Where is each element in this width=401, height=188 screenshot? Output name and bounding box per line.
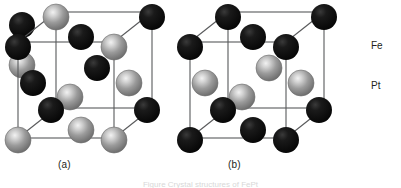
atom-fe-b-front-bottom-left-corner bbox=[177, 127, 203, 153]
figure-root: Fe Pt (a) (b) Figure Crystal structures … bbox=[0, 0, 401, 188]
atom-fe-b-front-top-left bbox=[177, 34, 203, 60]
atom-fe-a-left-face-center bbox=[20, 70, 46, 96]
atom-pt-a-front-bottom-left-corner bbox=[5, 127, 31, 153]
atom-fe-b-bottom-face-center bbox=[240, 117, 266, 143]
atom-fe-b-back-bottom-right bbox=[306, 97, 332, 123]
legend-label-pt: Pt bbox=[371, 80, 380, 91]
atom-fe-b-front-top-right bbox=[273, 34, 299, 60]
atom-fe-a-top-face-center bbox=[84, 55, 110, 81]
atom-pt-b-upper-face-center bbox=[256, 55, 282, 81]
unit-cell-diagram-a bbox=[0, 0, 172, 158]
unit-cell-diagram-b bbox=[172, 0, 352, 158]
panel-label-a: (a) bbox=[58, 159, 71, 170]
atom-fe-b-back-top-left bbox=[215, 4, 241, 30]
atom-fe-a-front-bottom-left bbox=[38, 97, 64, 123]
legend-label-fe: Fe bbox=[371, 40, 383, 51]
atom-fe-b-front-bottom-right-corner bbox=[273, 127, 299, 153]
atom-fe-b-back-face-center bbox=[240, 24, 266, 50]
atom-pt-a-front-top-right bbox=[101, 34, 127, 60]
atom-fe-b-back-top-right bbox=[311, 4, 337, 30]
atom-pt-a-right-face-center bbox=[116, 70, 142, 96]
panel-label-b: (b) bbox=[228, 159, 241, 170]
figure-caption: Figure Crystal structures of FePt bbox=[0, 180, 401, 188]
atom-pt-a-back-top-left bbox=[43, 4, 69, 30]
atom-fe-a-back-bottom-right bbox=[134, 97, 160, 123]
atom-fe-b-front-bottom-left bbox=[210, 97, 236, 123]
atom-pt-a-bottom-face-center bbox=[68, 117, 94, 143]
atom-fe-a-back-face-center bbox=[68, 24, 94, 50]
atom-fe-a-front-top-left bbox=[5, 34, 31, 60]
atom-fe-a-back-top-right bbox=[139, 4, 165, 30]
atom-pt-b-right-face-center bbox=[288, 70, 314, 96]
atom-pt-a-front-bottom-right-corner bbox=[101, 127, 127, 153]
atom-pt-b-left-face-center bbox=[192, 70, 218, 96]
